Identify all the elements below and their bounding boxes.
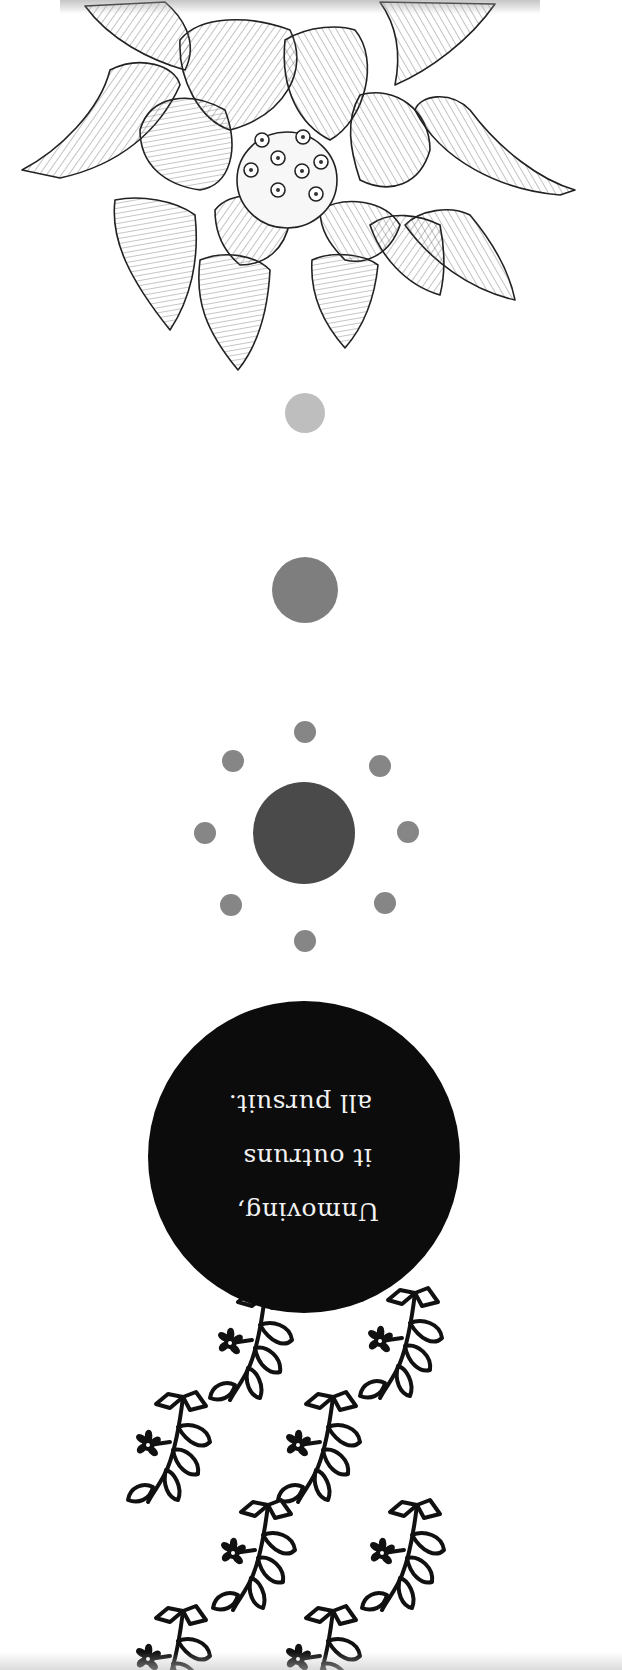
quote-line-1: Unmoving,	[229, 1184, 379, 1238]
quote-line-3: all pursuit.	[222, 1076, 386, 1130]
quote-text-block: Unmoving, it outruns all pursuit.	[148, 1001, 460, 1313]
artwork-canvas: Unmoving, it outruns all pursuit.	[0, 0, 622, 1670]
quote-line-2: it outruns	[222, 1130, 386, 1184]
floral-sprig-pattern	[0, 0, 622, 1670]
bottom-edge-shadow	[0, 1652, 622, 1670]
quote-disc: Unmoving, it outruns all pursuit.	[148, 1001, 460, 1313]
